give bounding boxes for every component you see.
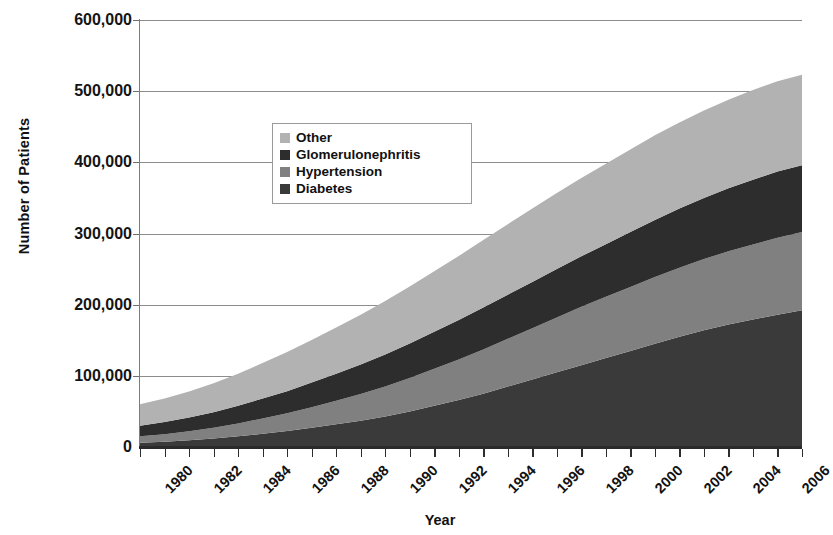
legend-item: Glomerulonephritis xyxy=(280,146,464,163)
legend-item-label: Other xyxy=(296,131,332,145)
x-axis-tick-label: 1990 xyxy=(407,462,441,496)
x-axis-tick-label: 1994 xyxy=(505,462,539,496)
x-axis-tick-mark xyxy=(777,449,778,457)
x-axis-tick-mark xyxy=(434,449,435,457)
x-axis-tick-label: 1982 xyxy=(211,462,245,496)
y-axis-tick-labels: 600,000500,000400,000300,000200,000100,0… xyxy=(28,0,132,535)
legend-item-label: Hypertension xyxy=(296,165,382,179)
y-axis-tick-label: 100,000 xyxy=(40,368,132,384)
legend-swatch-icon xyxy=(280,167,290,177)
x-axis-tick-mark xyxy=(655,449,656,457)
x-axis-tick-label: 1980 xyxy=(162,462,196,496)
x-axis-tick-label: 2000 xyxy=(652,462,686,496)
x-axis-tick-mark xyxy=(361,449,362,457)
x-axis-tick-mark xyxy=(728,449,729,457)
y-axis-tick-label: 500,000 xyxy=(40,83,132,99)
x-axis-tick-mark xyxy=(459,449,460,457)
x-axis-title: Year xyxy=(390,512,490,528)
x-axis-tick-mark xyxy=(483,449,484,457)
x-axis-tick-label: 1992 xyxy=(456,462,490,496)
x-axis-tick-label: 1988 xyxy=(358,462,392,496)
x-axis-tick-mark xyxy=(630,449,631,457)
x-axis-tick-label: 2002 xyxy=(701,462,735,496)
x-axis-tick-mark xyxy=(679,449,680,457)
x-axis-tick-mark xyxy=(263,449,264,457)
legend-swatch-icon xyxy=(280,150,290,160)
x-axis-tick-mark xyxy=(508,449,509,457)
x-axis-tick-mark xyxy=(336,449,337,457)
x-axis-tick-mark xyxy=(189,449,190,457)
y-axis-line xyxy=(139,19,140,448)
y-axis-tick-label: 600,000 xyxy=(40,12,132,28)
x-axis-tick-mark xyxy=(385,449,386,457)
x-axis-tick-mark xyxy=(312,449,313,457)
x-axis-tick-mark xyxy=(704,449,705,457)
x-axis-tick-label: 2006 xyxy=(799,462,833,496)
x-axis-tick-mark xyxy=(753,449,754,457)
y-axis-tick-label: 400,000 xyxy=(40,154,132,170)
area-series-group xyxy=(140,20,802,447)
y-axis-tick-label: 200,000 xyxy=(40,297,132,313)
plot-area xyxy=(140,20,802,447)
x-axis-tick-label: 1986 xyxy=(309,462,343,496)
legend-item-label: Glomerulonephritis xyxy=(296,148,421,162)
x-axis-tick-mark xyxy=(581,449,582,457)
x-axis-tick-mark xyxy=(802,449,803,457)
x-axis-tick-mark xyxy=(557,449,558,457)
legend-swatch-icon xyxy=(280,184,290,194)
x-axis-tick-label: 1996 xyxy=(554,462,588,496)
chart-legend: OtherGlomerulonephritisHypertensionDiabe… xyxy=(272,123,472,204)
legend-item: Diabetes xyxy=(280,180,464,197)
legend-item: Other xyxy=(280,129,464,146)
y-axis-tick-label: 0 xyxy=(40,439,132,455)
x-axis-tick-mark xyxy=(238,449,239,457)
legend-item: Hypertension xyxy=(280,163,464,180)
x-axis-tick-label: 1984 xyxy=(260,462,294,496)
x-axis-tick-mark xyxy=(214,449,215,457)
y-axis-tick-label: 300,000 xyxy=(40,226,132,242)
x-axis-tick-mark xyxy=(165,449,166,457)
x-axis-tick-mark xyxy=(287,449,288,457)
x-axis-tick-label: 2004 xyxy=(750,462,784,496)
legend-swatch-icon xyxy=(280,133,290,143)
legend-item-label: Diabetes xyxy=(296,182,352,196)
x-axis-tick-mark xyxy=(140,449,141,457)
x-axis-tick-mark xyxy=(532,449,533,457)
x-axis-tick-mark xyxy=(606,449,607,457)
x-axis-tick-label: 1998 xyxy=(603,462,637,496)
x-axis-tick-mark xyxy=(410,449,411,457)
